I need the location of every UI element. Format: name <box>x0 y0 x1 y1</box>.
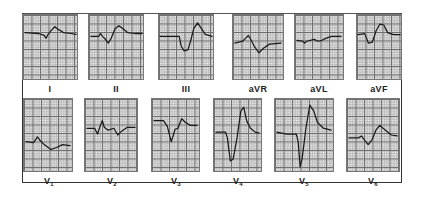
lead-V6-label: V6 <box>361 176 385 187</box>
lead-V6-strip <box>346 98 400 172</box>
lead-I-trace <box>23 15 77 79</box>
lead-V5-trace <box>275 99 333 171</box>
lead-V5-strip <box>274 98 334 172</box>
lead-aVL-trace <box>295 15 343 79</box>
lead-I-strip <box>22 14 78 80</box>
lead-III-strip <box>158 14 214 80</box>
lead-II-trace <box>89 15 143 79</box>
lead-II-label: II <box>106 84 126 94</box>
lead-V1-trace <box>24 99 72 171</box>
lead-III-label: III <box>176 84 196 94</box>
lead-aVF-strip <box>356 14 402 80</box>
lead-V2-strip <box>84 98 138 172</box>
lead-III-trace <box>159 15 213 79</box>
lead-V1-strip <box>23 98 73 172</box>
lead-aVR-strip <box>232 14 284 80</box>
lead-V4-label: V4 <box>226 176 250 187</box>
lead-V4-trace <box>214 99 261 171</box>
lead-V4-strip <box>213 98 262 172</box>
lead-V2-trace <box>85 99 137 171</box>
lead-V2-label: V2 <box>100 176 124 187</box>
lead-aVL-strip <box>294 14 344 80</box>
lead-aVF-label: aVF <box>366 84 392 94</box>
lead-aVR-label: aVR <box>245 84 271 94</box>
lead-aVF-trace <box>357 15 401 79</box>
lead-V5-label: V5 <box>292 176 316 187</box>
lead-I-label: I <box>40 84 60 94</box>
lead-V1-label: V1 <box>37 176 61 187</box>
lead-V3-label: V3 <box>164 176 188 187</box>
lead-aVR-trace <box>233 15 283 79</box>
lead-V3-trace <box>152 99 199 171</box>
lead-V6-trace <box>347 99 399 171</box>
lead-V3-strip <box>151 98 200 172</box>
lead-aVL-label: aVL <box>306 84 332 94</box>
lead-II-strip <box>88 14 144 80</box>
